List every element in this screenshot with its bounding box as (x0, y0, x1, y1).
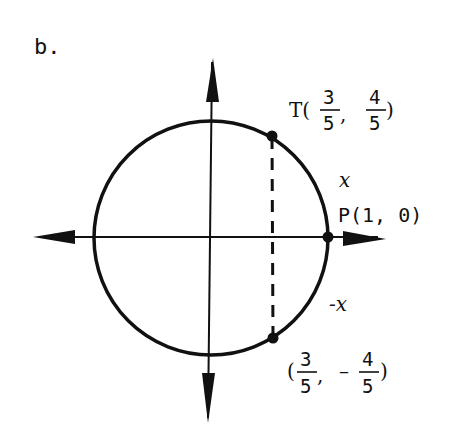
label-T-close: ) (386, 98, 394, 122)
point-T (267, 131, 278, 142)
label-Q-y-den: 5 (362, 375, 373, 397)
x-axis-left-arrow-icon (33, 230, 75, 244)
label-T: T( 3 5 , 4 5 ) (289, 86, 394, 134)
figure-label: b. (34, 34, 61, 59)
y-axis-down-arrow-icon (202, 373, 215, 423)
point-P (323, 232, 334, 243)
label-Q-open: ( (287, 359, 295, 383)
label-T-comma: , (340, 102, 346, 126)
y-axis (208, 62, 212, 418)
label-Q-x-den: 5 (300, 375, 311, 397)
label-T-y-den: 5 (369, 112, 380, 134)
label-T-x-den: 5 (323, 112, 334, 134)
label-P: P(1, 0) (338, 203, 422, 227)
label-Q-comma: , (317, 363, 323, 387)
label-T-y-num: 4 (369, 86, 380, 108)
arc-label-upper: x (339, 168, 350, 192)
label-Q-y-sign: – (339, 359, 349, 383)
arc-label-lower: -x (329, 292, 347, 316)
label-T-open: T( (289, 98, 310, 122)
label-Q-y-num: 4 (362, 348, 373, 370)
y-axis-up-arrow-icon (206, 58, 219, 102)
label-Q: ( 3 5 , – 4 5 ) (287, 348, 388, 397)
label-T-x-num: 3 (323, 86, 334, 108)
x-axis-right-arrow-icon (343, 231, 386, 246)
label-Q-x-num: 3 (300, 348, 311, 370)
point-Q (268, 333, 279, 344)
label-Q-close: ) (380, 359, 388, 383)
unit-circle-diagram: b. T( 3 5 , 4 5 ) x P(1, 0) -x ( 3 5 , –… (0, 0, 468, 442)
